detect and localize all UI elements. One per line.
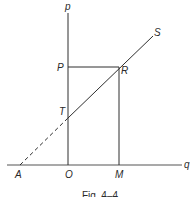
line-ts <box>68 36 153 118</box>
label-p: P <box>57 62 64 73</box>
label-p-axis: p <box>64 1 71 12</box>
label-a: A <box>14 169 22 180</box>
diagram-canvas: p q S P R T A O M Fig. 4–4 <box>0 0 190 197</box>
dashed-line-at <box>20 118 68 165</box>
label-t: T <box>59 106 66 117</box>
label-s: S <box>154 27 161 38</box>
figure-caption: Fig. 4–4 <box>82 190 119 197</box>
label-o: O <box>65 169 73 180</box>
label-q-axis: q <box>184 159 190 170</box>
label-r: R <box>121 65 128 76</box>
label-m: M <box>115 169 124 180</box>
